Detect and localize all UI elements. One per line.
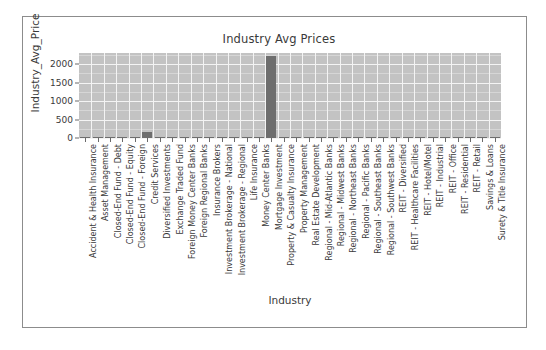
x-tick-mark <box>209 138 210 142</box>
x-tick-label: Mortgage Investment <box>275 144 284 230</box>
bar <box>291 137 301 138</box>
x-gridline <box>402 53 403 138</box>
x-gridline <box>414 53 415 138</box>
bar <box>304 137 314 138</box>
x-tick-mark <box>147 138 148 142</box>
x-tick-mark <box>110 138 111 142</box>
x-tick-mark <box>383 138 384 142</box>
x-gridline <box>427 53 428 138</box>
x-tick-label: Accident & Health Insurance <box>89 144 98 258</box>
x-tick-mark <box>85 138 86 142</box>
x-tick-mark <box>222 138 223 142</box>
y-tick-mark <box>75 64 79 65</box>
x-tick-label: Savings & Loans <box>486 144 495 210</box>
x-gridline <box>315 53 316 138</box>
x-tick-mark <box>346 138 347 142</box>
bar <box>440 137 450 138</box>
x-tick-label: Closed-End Fund - Debt <box>114 144 123 238</box>
x-tick-mark <box>371 138 372 142</box>
x-gridline <box>91 53 92 138</box>
x-tick-mark <box>445 138 446 142</box>
x-tick-mark <box>433 138 434 142</box>
bar <box>378 137 388 138</box>
x-tick-label: Closed-End Fund - Equity <box>126 144 135 244</box>
x-gridline <box>290 53 291 138</box>
x-tick-mark <box>247 138 248 142</box>
x-tick-mark <box>321 138 322 142</box>
x-tick-label: Investment Brokerage - Regional <box>238 144 247 275</box>
bar <box>266 56 276 138</box>
bar <box>130 137 140 138</box>
x-tick-label: Regional - Northeast Banks <box>349 144 358 253</box>
x-gridline <box>278 53 279 138</box>
x-gridline <box>203 53 204 138</box>
y-tick-label: 500 <box>56 115 73 125</box>
bar <box>217 137 227 138</box>
x-tick-label: Credit Services <box>151 144 160 204</box>
x-tick-label: Regional - Midwest Banks <box>337 144 346 246</box>
x-gridline <box>141 53 142 138</box>
y-gridline <box>79 138 501 139</box>
x-tick-label: REIT - Hotel/Motel <box>424 144 433 216</box>
bar <box>415 137 425 138</box>
bar <box>167 137 177 138</box>
x-gridline <box>228 53 229 138</box>
x-tick-mark <box>470 138 471 142</box>
bar <box>155 137 165 138</box>
bar <box>254 137 264 138</box>
x-tick-label: Foreign Money Center Banks <box>188 144 197 259</box>
y-tick-label: 1500 <box>50 78 73 88</box>
bar <box>180 137 190 138</box>
bar <box>477 137 487 138</box>
bar <box>142 132 152 138</box>
bar <box>204 137 214 138</box>
bar <box>353 137 363 138</box>
x-tick-label: REIT - Residential <box>461 144 470 214</box>
x-tick-label: REIT - Industrial <box>436 144 445 207</box>
figure-border: Industry Avg Prices Industry_Avg_Price 0… <box>22 16 527 328</box>
y-tick-label: 1000 <box>50 96 73 106</box>
x-tick-label: REIT - Healthcare Facilities <box>411 144 420 250</box>
bar <box>366 137 376 138</box>
x-tick-mark <box>259 138 260 142</box>
bar <box>192 137 202 138</box>
bar <box>316 137 326 138</box>
y-tick-mark <box>75 82 79 83</box>
x-tick-label: Money Center Banks <box>262 144 271 227</box>
x-tick-label: Property & Casualty Insurance <box>287 144 296 266</box>
x-gridline <box>104 53 105 138</box>
x-gridline <box>464 53 465 138</box>
x-tick-mark <box>98 138 99 142</box>
y-tick-mark <box>75 101 79 102</box>
x-tick-mark <box>185 138 186 142</box>
chart-figure: Industry Avg Prices Industry_Avg_Price 0… <box>23 17 526 327</box>
bar <box>229 137 239 138</box>
x-tick-mark <box>234 138 235 142</box>
x-tick-mark <box>396 138 397 142</box>
x-tick-label: Regional - Pacific Banks <box>362 144 371 239</box>
bar <box>117 137 127 138</box>
bar <box>465 137 475 138</box>
x-tick-mark <box>197 138 198 142</box>
x-tick-label: Regional - Mid-Atlantic Banks <box>325 144 334 261</box>
x-tick-label: Regional - Southeast Banks <box>374 144 383 254</box>
x-tick-label: Investment Brokerage - National <box>225 144 234 274</box>
x-tick-mark <box>160 138 161 142</box>
x-tick-label: Insurance Brokers <box>213 144 222 216</box>
x-tick-mark <box>420 138 421 142</box>
x-gridline <box>166 53 167 138</box>
y-axis-label: Industry_Avg_Price <box>29 3 41 123</box>
x-gridline <box>327 53 328 138</box>
x-gridline <box>489 53 490 138</box>
y-tick-label: 0 <box>67 133 73 143</box>
x-tick-mark <box>482 138 483 142</box>
x-gridline <box>240 53 241 138</box>
bar <box>279 137 289 138</box>
x-gridline <box>129 53 130 138</box>
y-tick-label: 2000 <box>50 59 73 69</box>
x-tick-mark <box>284 138 285 142</box>
x-gridline <box>191 53 192 138</box>
x-gridline <box>340 53 341 138</box>
x-gridline <box>153 53 154 138</box>
x-tick-label: REIT - Office <box>449 144 458 193</box>
